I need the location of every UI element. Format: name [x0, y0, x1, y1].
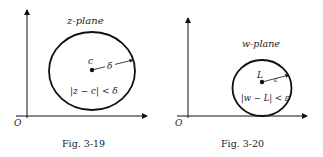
- caption: Fig. 3-20: [221, 138, 264, 149]
- radius-label: δ: [107, 61, 112, 71]
- inequality-label: |w − L| < ε: [241, 93, 290, 104]
- figure-3-20: w-plane L ε |w − L| < ε O Fig. 3-20: [175, 18, 307, 149]
- plane-label: z-plane: [66, 15, 104, 26]
- origin-label: O: [14, 118, 22, 128]
- figures-canvas: z-plane c δ |z − c| < δ O Fig. 3-19 w-pl…: [0, 0, 323, 157]
- figure-3-19: z-plane c δ |z − c| < δ O Fig. 3-19: [14, 10, 147, 149]
- epsilon-neighborhood-circle: [233, 60, 292, 116]
- center-label: L: [256, 70, 263, 80]
- origin-label: O: [175, 118, 183, 128]
- radius-label: ε: [274, 76, 278, 84]
- caption: Fig. 3-19: [62, 138, 105, 149]
- inequality-label: |z − c| < δ: [70, 86, 118, 97]
- plane-label: w-plane: [242, 38, 280, 49]
- center-label: c: [88, 56, 93, 66]
